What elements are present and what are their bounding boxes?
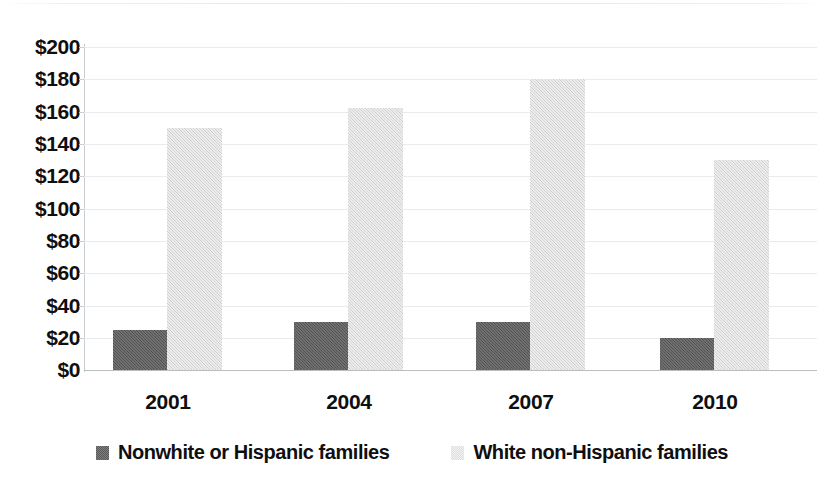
y-axis-tick-labels: $200 $180 $160 $140 $120 $100 $80 $60 $4… xyxy=(0,0,80,483)
bar-white-2007 xyxy=(530,79,585,370)
y-axis-tick-label: $180 xyxy=(4,67,80,91)
y-tick-mark xyxy=(79,176,84,177)
x-axis-label-2004: 2004 xyxy=(294,390,404,414)
y-axis-tick-label: $100 xyxy=(4,197,80,221)
gridline xyxy=(84,47,817,48)
legend-label-nonwhite: Nonwhite or Hispanic families xyxy=(118,441,389,464)
legend-item-white[interactable]: White non-Hispanic families xyxy=(451,441,728,464)
legend-label-white: White non-Hispanic families xyxy=(473,441,728,464)
x-axis-label-2001: 2001 xyxy=(113,390,223,414)
bar-nonwhite-2007 xyxy=(476,322,530,370)
y-tick-mark xyxy=(79,209,84,210)
bar-white-2001 xyxy=(167,128,222,370)
legend-swatch-icon-nonwhite xyxy=(96,446,109,460)
y-tick-mark xyxy=(79,241,84,242)
plot-area xyxy=(84,47,817,370)
legend-swatch-icon-white xyxy=(451,446,464,460)
gridline xyxy=(84,112,817,113)
bar-nonwhite-2010 xyxy=(660,338,714,370)
y-tick-mark xyxy=(79,112,84,113)
x-axis-label-2010: 2010 xyxy=(660,390,770,414)
y-tick-mark xyxy=(79,47,84,48)
x-axis-line xyxy=(84,370,817,371)
y-axis-tick-label: $200 xyxy=(4,35,80,59)
y-axis-tick-label: $160 xyxy=(4,100,80,124)
y-axis-tick-label: $40 xyxy=(4,294,80,318)
y-axis-tick-label: $80 xyxy=(4,229,80,253)
bar-white-2004 xyxy=(348,108,403,370)
chart-legend: Nonwhite or Hispanic families White non-… xyxy=(0,441,824,464)
y-axis-tick-label: $0 xyxy=(4,358,80,382)
y-axis-tick-label: $60 xyxy=(4,261,80,285)
y-axis-tick-label: $120 xyxy=(4,164,80,188)
x-axis-label-2007: 2007 xyxy=(476,390,586,414)
y-tick-mark xyxy=(79,338,84,339)
y-axis-tick-label: $20 xyxy=(4,326,80,350)
bar-nonwhite-2001 xyxy=(113,330,167,370)
y-tick-mark xyxy=(79,306,84,307)
bar-chart-figure: $200 $180 $160 $140 $120 $100 $80 $60 $4… xyxy=(0,0,824,483)
bar-white-2010 xyxy=(714,160,769,370)
y-axis-tick-label: $140 xyxy=(4,132,80,156)
y-tick-mark xyxy=(79,79,84,80)
legend-item-nonwhite[interactable]: Nonwhite or Hispanic families xyxy=(96,441,389,464)
gridline xyxy=(84,79,817,80)
y-tick-mark xyxy=(79,144,84,145)
bar-nonwhite-2004 xyxy=(294,322,348,370)
y-tick-mark xyxy=(79,273,84,274)
page-scan-rule xyxy=(0,3,824,4)
